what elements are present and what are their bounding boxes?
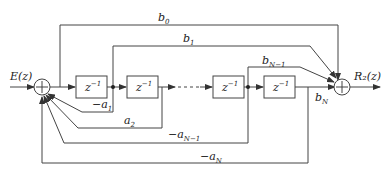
coef-b1: b1	[183, 32, 195, 47]
coef-bN-1: bN−1	[262, 54, 286, 69]
output-label: R₂(z)	[353, 70, 381, 83]
coef-aN-1: −aN−1	[168, 128, 200, 143]
coef-a1: −a1	[92, 98, 112, 113]
coef-b0: b0	[158, 11, 170, 26]
coef-bN: bN	[315, 91, 329, 106]
coef-a2: a2	[124, 114, 136, 129]
coef-aN: −aN	[200, 150, 223, 165]
summing-junction-left	[34, 79, 50, 95]
summing-junction-right	[334, 79, 350, 95]
input-label: E(z)	[9, 70, 32, 83]
block-diagram: z−1 z−1 z−1 z−1 E(z) R₂(z) b0 b1 bN−1 bN…	[0, 0, 383, 174]
